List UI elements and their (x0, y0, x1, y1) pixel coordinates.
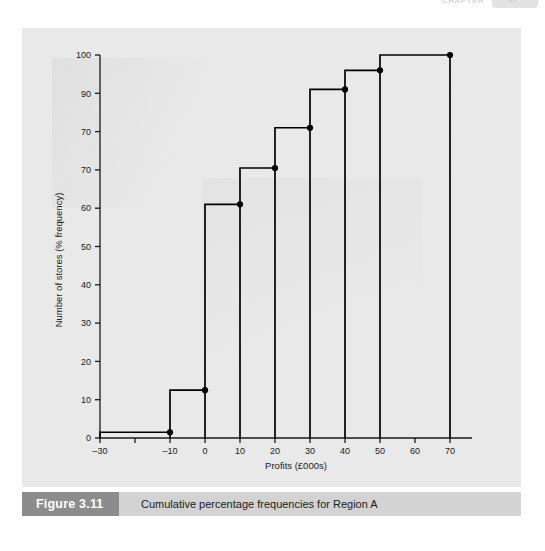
page-number: 97 (508, 0, 517, 4)
x-axis-tick-label: 40 (340, 446, 350, 456)
data-point-marker (237, 201, 243, 207)
x-axis-tick-label: 50 (375, 446, 385, 456)
running-head-text: CHAPTER (442, 0, 484, 5)
x-axis-tick-label: 10 (235, 446, 245, 456)
y-axis-tick-label: 60 (81, 203, 91, 213)
chart-svg: 0102030405060707090100 –30–1001020304050… (22, 28, 521, 487)
y-axis-tick-label: 70 (81, 165, 91, 175)
x-axis-tick-label: 30 (305, 446, 315, 456)
x-axis-tick-label: –10 (162, 446, 177, 456)
y-axis-tick-label: 30 (81, 318, 91, 328)
data-point-marker (377, 67, 383, 73)
y-axis: 0102030405060707090100 (76, 50, 100, 443)
x-axis-tick-label: –30 (92, 446, 107, 456)
x-axis-title: Profits (£000s) (265, 460, 327, 471)
y-axis-tick-label: 20 (81, 357, 91, 367)
y-axis-tick-label: 90 (81, 89, 91, 99)
y-axis-tick-label: 0 (86, 433, 91, 443)
y-axis-tick-label: 10 (81, 395, 91, 405)
y-axis-title: Number of stores (% frequency) (53, 193, 64, 328)
y-axis-tick-label: 70 (81, 127, 91, 137)
data-point-marker (167, 429, 173, 435)
data-point-marker (307, 125, 313, 131)
x-axis-tick-label: 0 (202, 446, 207, 456)
figure-caption-bar: Figure 3.11 Cumulative percentage freque… (22, 492, 521, 516)
data-point-marker (447, 52, 453, 58)
y-axis-tick-label: 100 (76, 50, 91, 60)
figure-number-badge: Figure 3.11 (22, 492, 119, 516)
y-axis-tick-label: 40 (81, 280, 91, 290)
page-running-head: CHAPTER 97 (430, 0, 545, 12)
x-axis-tick-label: 20 (270, 446, 280, 456)
figure-panel: 0102030405060707090100 –30–1001020304050… (22, 28, 521, 487)
figure-caption-text: Cumulative percentage frequencies for Re… (119, 492, 521, 516)
x-axis-tick-label: 60 (410, 446, 420, 456)
y-axis-tick-label: 50 (81, 242, 91, 252)
x-axis: –30–10010203040506070 (92, 438, 472, 456)
data-point-marker (202, 387, 208, 393)
step-line-series (100, 55, 450, 438)
data-point-marker (342, 86, 348, 92)
x-axis-tick-label: 70 (445, 446, 455, 456)
data-point-marker (272, 165, 278, 171)
cumulative-frequency-chart: 0102030405060707090100 –30–1001020304050… (22, 28, 521, 487)
